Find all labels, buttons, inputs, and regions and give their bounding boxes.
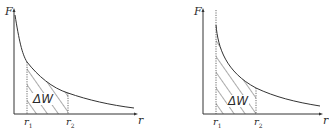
r2-label-left: r2 [66,117,75,129]
y-axis-label-left: F [5,6,13,17]
diagrams-canvas [0,0,329,129]
hatched-area-left [27,55,69,115]
right-diagram [202,8,324,116]
area-label-left: ΔW [32,93,54,105]
r1-label-right: r1 [213,117,222,129]
x-axis-label-right: r [323,115,328,126]
area-label-right: ΔW [227,95,249,107]
r2-label-right: r2 [254,117,263,129]
y-axis-label-right: F [194,6,202,17]
x-axis-label-left: r [138,115,143,126]
r1-label-left: r1 [24,117,33,129]
